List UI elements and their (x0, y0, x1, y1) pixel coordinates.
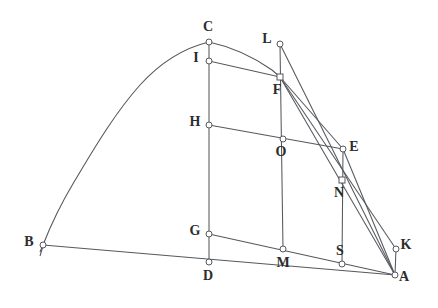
point-label-l: L (262, 31, 271, 46)
point-marker-f (277, 74, 283, 80)
point-label-s: S (336, 243, 344, 258)
point-marker-m (280, 246, 286, 252)
seg-L-A (280, 44, 395, 275)
point-group (40, 39, 399, 278)
point-label-n: N (334, 185, 344, 200)
point-marker-c (206, 39, 212, 45)
point-marker-a (392, 272, 398, 278)
seg-I-F (209, 61, 280, 77)
arc-B-C-F (40, 42, 280, 252)
seg-K-A (395, 249, 396, 275)
point-label-b: B (24, 234, 33, 249)
point-label-c: C (203, 19, 213, 34)
point-marker-d (206, 259, 212, 265)
point-label-a: A (399, 269, 410, 284)
point-marker-k (393, 246, 399, 252)
point-label-f: F (273, 82, 282, 97)
seg-G-A (209, 234, 395, 275)
point-label-g: G (190, 223, 201, 238)
point-marker-l (277, 41, 283, 47)
point-marker-g (206, 231, 212, 237)
point-label-d: D (203, 268, 213, 283)
point-label-e: E (349, 139, 358, 154)
geometry-diagram: ABCDEFGHIKLMNOS (0, 0, 438, 308)
point-marker-n (339, 177, 345, 183)
point-marker-e (340, 146, 346, 152)
seg-E-A (343, 149, 395, 275)
point-marker-i (206, 58, 212, 64)
point-label-o: O (276, 144, 287, 159)
point-marker-o (280, 136, 286, 142)
seg-F-E (280, 77, 343, 149)
point-marker-b (40, 242, 46, 248)
point-label-m: M (276, 255, 289, 270)
curve-group (40, 42, 280, 252)
point-label-k: K (401, 237, 412, 252)
seg-F-K (280, 77, 396, 249)
point-label-i: I (193, 50, 198, 65)
point-marker-s (339, 261, 345, 267)
label-group: ABCDEFGHIKLMNOS (24, 19, 411, 284)
point-label-h: H (190, 114, 201, 129)
point-marker-h (206, 122, 212, 128)
segment-group (40, 42, 396, 275)
